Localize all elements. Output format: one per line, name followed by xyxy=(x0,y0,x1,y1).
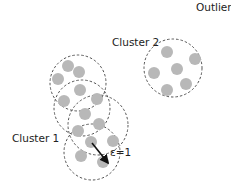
data-point xyxy=(161,84,173,96)
outlier-label: Outlier xyxy=(196,1,231,13)
data-point xyxy=(52,73,64,85)
data-point xyxy=(74,84,86,96)
data-point xyxy=(93,118,105,130)
dbscan-diagram xyxy=(0,0,231,187)
data-point xyxy=(161,46,173,58)
cluster2-label: Cluster 2 xyxy=(112,36,159,48)
data-point xyxy=(58,95,70,107)
data-point xyxy=(75,150,87,162)
data-point xyxy=(79,108,91,120)
data-point xyxy=(91,93,103,105)
data-point xyxy=(72,125,84,137)
data-point xyxy=(171,63,183,75)
cluster1-label: Cluster 1 xyxy=(12,132,59,144)
data-point xyxy=(180,78,192,90)
data-point xyxy=(148,67,160,79)
data-point xyxy=(189,53,201,65)
data-point xyxy=(73,66,85,78)
data-point xyxy=(62,60,74,72)
epsilon-label: ε=1 xyxy=(110,146,131,158)
